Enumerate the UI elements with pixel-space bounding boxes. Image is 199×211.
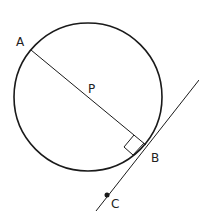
diameter-ab — [31, 50, 146, 145]
label-p: P — [88, 82, 95, 96]
point-c-dot — [105, 193, 110, 198]
right-angle-marker — [124, 135, 144, 155]
geometry-diagram: A P B C — [0, 0, 199, 211]
label-a: A — [16, 35, 25, 49]
tangent-line — [96, 80, 199, 211]
label-c: C — [111, 197, 119, 211]
label-b: B — [151, 151, 159, 165]
